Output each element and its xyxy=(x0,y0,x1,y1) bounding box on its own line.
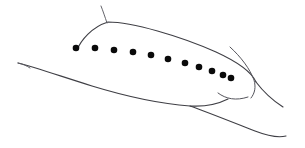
canvas-background xyxy=(0,0,305,148)
marker-dot xyxy=(130,49,137,56)
marker-dot xyxy=(165,56,172,63)
marker-dot xyxy=(73,45,80,52)
marker-dot xyxy=(196,64,203,71)
marker-dot xyxy=(209,68,216,75)
marker-dot xyxy=(182,60,189,67)
marker-dot xyxy=(111,47,118,54)
marker-dot xyxy=(228,75,235,82)
marker-dot xyxy=(220,72,227,79)
marker-dot xyxy=(92,45,99,52)
figure-canvas xyxy=(0,0,305,148)
marker-dot xyxy=(148,52,155,59)
line-sketch-svg xyxy=(0,0,305,148)
